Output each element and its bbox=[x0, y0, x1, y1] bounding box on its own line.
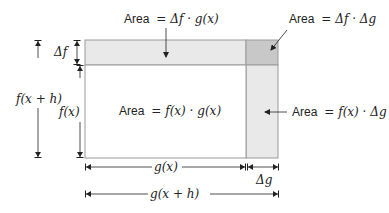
main-area-label: Area = f(x) · g(x) bbox=[119, 101, 221, 118]
corner-area-label: Area = Δf · Δg bbox=[289, 9, 376, 26]
right-strip bbox=[246, 65, 278, 158]
f-x-label: f(x) bbox=[58, 105, 80, 119]
right-strip-area-label: Area = f(x) · Δg bbox=[292, 102, 387, 119]
top-strip-area-label: Area = Δf · g(x) bbox=[124, 9, 219, 26]
g-x-plus-h-label: g(x + h) bbox=[150, 187, 200, 201]
corner-square bbox=[246, 40, 278, 65]
delta-f-label: Δf bbox=[53, 45, 70, 59]
f-x-plus-h-label: f(x + h) bbox=[15, 92, 62, 106]
product-rule-diagram: Area = Δf · g(x) Area = Δf · Δg Area = f… bbox=[0, 0, 389, 213]
delta-g-label: Δg bbox=[255, 173, 273, 187]
top-strip bbox=[85, 40, 246, 65]
g-x-label: g(x) bbox=[154, 160, 178, 174]
